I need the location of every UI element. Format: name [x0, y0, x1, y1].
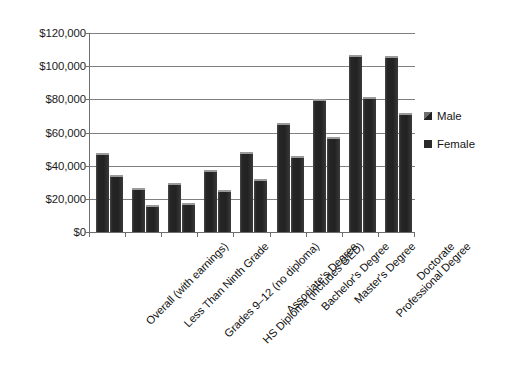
x-axis-labels: Overall (with earnings)Less Than Ninth G… — [0, 232, 520, 372]
bar-group — [313, 33, 349, 232]
bar-female — [363, 97, 376, 232]
bar-male — [385, 56, 398, 232]
legend-label-male: Male — [437, 110, 462, 122]
bar-male — [313, 99, 326, 232]
legend-swatch-male-icon — [424, 112, 432, 120]
bar-male — [168, 183, 181, 232]
y-axis-tick-label: $60,000 — [4, 127, 86, 139]
bar-group — [204, 33, 240, 232]
bar-group — [132, 33, 168, 232]
plot-area — [89, 33, 414, 232]
bar-female — [110, 175, 123, 232]
bar-group — [240, 33, 276, 232]
y-axis-tick-label: $40,000 — [4, 160, 86, 172]
bar-male — [240, 152, 253, 232]
bar-male — [349, 55, 362, 232]
bar-male — [96, 153, 109, 232]
bar-female — [146, 205, 159, 232]
chart-legend: Male Female — [424, 110, 516, 166]
legend-item-male: Male — [424, 110, 516, 122]
y-axis-tick-label: $120,000 — [4, 27, 86, 39]
bar-female — [399, 113, 412, 232]
earnings-by-education-bar-chart: $0$20,000$40,000$60,000$80,000$100,000$1… — [0, 0, 520, 372]
bar-male — [132, 188, 145, 232]
bar-group — [96, 33, 132, 232]
bar-group — [168, 33, 204, 232]
x-axis-category-label: Less Than Ninth Grade — [181, 240, 270, 329]
bar-female — [218, 190, 231, 232]
legend-item-female: Female — [424, 138, 516, 150]
bar-female — [327, 137, 340, 232]
bar-female — [254, 179, 267, 232]
bar-male — [277, 123, 290, 232]
bar-female — [182, 203, 195, 232]
y-axis-tick-label: $100,000 — [4, 60, 86, 72]
bar-group — [385, 33, 421, 232]
bar-group — [349, 33, 385, 232]
legend-swatch-female-icon — [424, 140, 432, 148]
legend-label-female: Female — [437, 138, 475, 150]
bar-group — [277, 33, 313, 232]
y-axis-tick-label: $20,000 — [4, 193, 86, 205]
bar-female — [291, 156, 304, 232]
bar-male — [204, 170, 217, 232]
y-axis-tick-label: $80,000 — [4, 93, 86, 105]
